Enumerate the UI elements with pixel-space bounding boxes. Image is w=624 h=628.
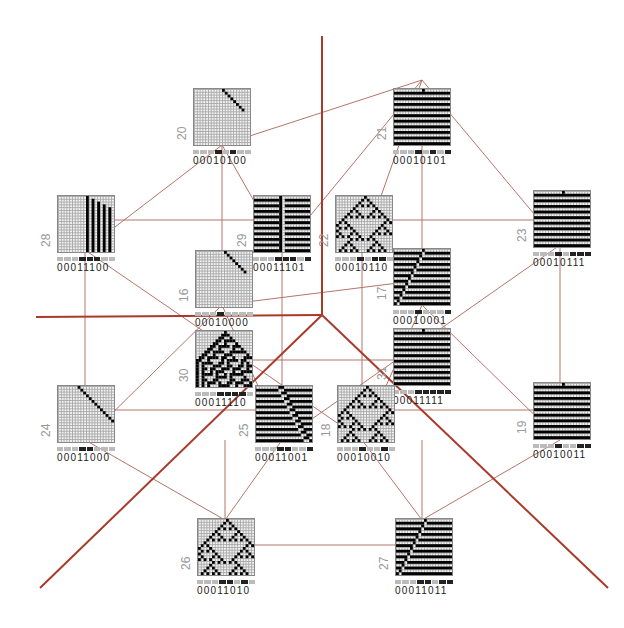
automaton-grid xyxy=(195,250,253,308)
rule-node-26: 0001101026 xyxy=(197,518,255,596)
bit-bar xyxy=(232,392,238,396)
rule-binary-code: 00011110 xyxy=(195,397,253,408)
rule-bits-bar xyxy=(255,447,313,451)
automaton-grid xyxy=(193,88,251,146)
bit-bar xyxy=(570,252,576,256)
bit-bar xyxy=(393,310,399,314)
bit-bar xyxy=(357,257,363,261)
bit-bar xyxy=(423,150,429,154)
bit-bar xyxy=(245,150,251,154)
bit-bar xyxy=(262,447,268,451)
bit-bar xyxy=(555,252,561,256)
bit-bar xyxy=(230,150,236,154)
rule-binary-code: 00011101 xyxy=(253,262,311,273)
rule-number-label: 29 xyxy=(235,234,249,247)
bit-bar xyxy=(290,257,296,261)
rule-binary-code: 00010100 xyxy=(193,155,251,166)
bit-bar xyxy=(227,580,233,584)
bit-bar xyxy=(101,447,107,451)
bit-bar xyxy=(247,392,253,396)
bit-bar xyxy=(415,310,421,314)
bit-bar xyxy=(225,312,231,316)
bit-bar xyxy=(217,392,223,396)
bit-bar xyxy=(395,580,401,584)
bit-bar xyxy=(210,392,216,396)
bit-bar xyxy=(109,257,115,261)
bit-bar xyxy=(389,447,395,451)
rule-binary-code: 00010010 xyxy=(337,452,395,463)
rule-node-22: 0001011022 xyxy=(335,195,393,273)
automaton-grid xyxy=(337,385,395,443)
bit-bar xyxy=(342,257,348,261)
bit-bar xyxy=(415,150,421,154)
automaton-grid xyxy=(533,382,591,440)
bit-bar xyxy=(408,390,414,394)
automaton-grid xyxy=(255,385,313,443)
rule-bits-bar xyxy=(197,580,255,584)
bit-bar xyxy=(253,257,259,261)
bit-bar xyxy=(101,257,107,261)
rule-binary-code: 00010001 xyxy=(393,315,451,326)
rule-bits-bar xyxy=(195,312,253,316)
bit-bar xyxy=(402,580,408,584)
bit-bar xyxy=(352,447,358,451)
bit-bar xyxy=(563,252,569,256)
rule-binary-code: 00011000 xyxy=(57,452,115,463)
bit-bar xyxy=(57,447,63,451)
rule-node-23: 0001011123 xyxy=(533,190,591,268)
rule-bits-bar xyxy=(57,447,115,451)
bit-bar xyxy=(417,580,423,584)
bit-bar xyxy=(79,257,85,261)
bit-bar xyxy=(212,580,218,584)
rule-node-20: 0001010020 xyxy=(193,88,251,166)
bit-bar xyxy=(439,580,445,584)
bit-bar xyxy=(423,310,429,314)
bit-bar xyxy=(350,257,356,261)
automaton-grid xyxy=(393,248,451,306)
rule-binary-code: 00010000 xyxy=(195,317,253,328)
rule-number-label: 19 xyxy=(515,421,529,434)
bit-bar xyxy=(374,447,380,451)
bit-bar xyxy=(72,257,78,261)
automaton-grid xyxy=(197,518,255,576)
bit-bar xyxy=(79,447,85,451)
bit-bar xyxy=(202,392,208,396)
bit-bar xyxy=(585,444,591,448)
rule-bits-bar xyxy=(395,580,453,584)
automaton-grid xyxy=(57,385,115,443)
bit-bar xyxy=(64,447,70,451)
rule-bits-bar xyxy=(533,444,591,448)
rule-binary-code: 00010110 xyxy=(335,262,393,273)
bit-bar xyxy=(305,257,311,261)
bit-bar xyxy=(94,257,100,261)
bit-bar xyxy=(381,447,387,451)
bit-bar xyxy=(94,447,100,451)
rule-node-19: 0001001119 xyxy=(533,382,591,460)
bit-bar xyxy=(540,252,546,256)
rule-node-27: 0001101127 xyxy=(395,518,453,596)
bit-bar xyxy=(577,252,583,256)
bit-bar xyxy=(359,447,365,451)
rule-bits-bar xyxy=(533,252,591,256)
rule-bits-bar xyxy=(195,392,253,396)
bit-bar xyxy=(285,447,291,451)
rule-number-label: 22 xyxy=(317,234,331,247)
rule-number-label: 25 xyxy=(237,424,251,437)
rule-number-label: 16 xyxy=(177,289,191,302)
bit-bar xyxy=(335,257,341,261)
rule-binary-code: 00010011 xyxy=(533,449,591,460)
bit-bar xyxy=(548,252,554,256)
rule-number-label: 18 xyxy=(319,424,333,437)
automaton-grid xyxy=(335,195,393,253)
bit-bar xyxy=(241,580,247,584)
rule-number-label: 26 xyxy=(179,557,193,570)
rule-binary-code: 00010111 xyxy=(533,257,591,268)
bit-bar xyxy=(344,447,350,451)
automaton-grid xyxy=(393,328,451,386)
bit-bar xyxy=(195,312,201,316)
automaton-grid xyxy=(393,88,451,146)
bit-bar xyxy=(87,447,93,451)
bit-bar xyxy=(260,257,266,261)
bit-bar xyxy=(548,444,554,448)
bit-bar xyxy=(275,257,281,261)
